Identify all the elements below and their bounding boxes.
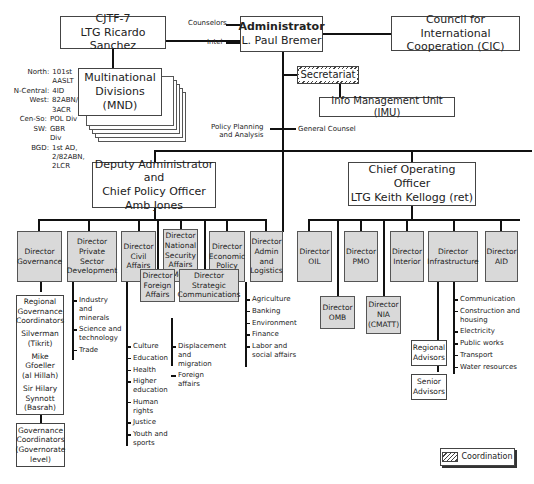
administrator-title: Administrator xyxy=(238,20,324,34)
text-line: Synnott xyxy=(25,394,54,404)
list-item: Health xyxy=(128,366,172,375)
list-item: Environment xyxy=(247,319,303,328)
connector xyxy=(38,219,266,221)
foreign-affairs-list: Displacement and migration Foreign affai… xyxy=(173,342,223,392)
mnd-title-3: (MND) xyxy=(103,99,138,113)
list-item: Culture xyxy=(128,342,172,351)
list-item: Human rights xyxy=(128,398,172,416)
connector xyxy=(138,219,140,231)
list-item: Justice xyxy=(128,418,172,427)
text-line: (Tikrit) xyxy=(28,339,53,349)
advisors-label: Senior Advisors xyxy=(412,377,446,397)
deputy-box: Deputy Administrator and Chief Policy Of… xyxy=(92,162,216,208)
connector xyxy=(406,219,408,231)
text-line: Sir Hilary xyxy=(23,384,57,394)
text-line: Mike xyxy=(31,352,48,362)
director-label: Director Civil Affairs xyxy=(122,242,155,271)
text-line: (Basrah) xyxy=(24,403,56,413)
counselors-label: Counselors xyxy=(188,19,227,27)
secretariat-label: Secretariat xyxy=(299,69,356,82)
legend-label: Coordination xyxy=(461,452,512,462)
cic-box: Council for International Cooperation (C… xyxy=(391,16,520,51)
cic-line1: Council for International xyxy=(392,13,519,41)
advisors-label: Regional Advisors xyxy=(412,343,446,363)
region-unit: POL Div xyxy=(50,115,78,124)
region-name: BGD: xyxy=(2,144,52,172)
connector xyxy=(154,150,532,152)
director-label: Director AID xyxy=(486,247,517,267)
general-counsel-label: General Counsel xyxy=(298,125,356,133)
text-line: (al Hillah) xyxy=(22,371,58,381)
director-infrastructure: Director Infrastructure xyxy=(428,231,478,282)
private-sector-list: Industry and minerals Science and techno… xyxy=(74,296,122,358)
mnd-title-2: Divisions xyxy=(95,85,144,99)
director-foreign-affairs: Director Foreign Affairs xyxy=(140,269,175,302)
region-name: West: xyxy=(2,96,52,115)
connector xyxy=(40,415,42,423)
text-line: Governance xyxy=(17,307,62,317)
director-aid: Director AID xyxy=(485,231,518,282)
director-label: Director Private Sector Development xyxy=(67,237,117,276)
regional-governance-box: Regional Governance Coordinators Silverm… xyxy=(16,295,64,415)
connector xyxy=(360,219,362,231)
civil-affairs-list: Culture Education Health Higher educatio… xyxy=(128,342,172,451)
connector xyxy=(40,282,42,292)
director-label: Director PMO xyxy=(345,247,377,267)
cjtf-name: LTG Ricardo Sanchez xyxy=(61,26,165,54)
coo-name: LTG Keith Kellogg (ret) xyxy=(351,191,473,205)
region-unit: 82ABN/ 3ACR xyxy=(52,96,78,115)
policy-planning-line2: and Analysis xyxy=(211,131,264,139)
list-item: Science and technology xyxy=(74,325,122,343)
list-item: Industry and minerals xyxy=(74,296,122,322)
list-item: Youth and sports xyxy=(128,430,172,448)
list-item: Education xyxy=(128,354,172,363)
list-item: Higher education xyxy=(128,377,172,395)
imu-label: Info Management Unit (IMU) xyxy=(320,95,454,120)
director-strategic-communications: Director Strategic Communications xyxy=(179,269,239,302)
list-item: Labor and social affairs xyxy=(247,342,303,360)
director-governance: Director Governance xyxy=(17,231,62,282)
region-name: SW: xyxy=(2,125,50,144)
connector xyxy=(204,219,206,269)
imu-box: Info Management Unit (IMU) xyxy=(319,97,455,117)
text-line: (Governorate xyxy=(16,445,66,455)
region-name: N-Central: xyxy=(2,87,52,96)
senior-advisors-box: Senior Advisors xyxy=(411,374,447,400)
director-private-sector: Director Private Sector Development xyxy=(67,231,117,282)
text-line: Coordinators xyxy=(16,435,64,445)
text-line: Regional xyxy=(24,297,56,307)
legend-box: Coordination xyxy=(440,448,515,466)
connector xyxy=(157,219,159,269)
director-admin-logistics: Director Admin and Logistics xyxy=(250,231,283,282)
mnd-title-1: Multinational xyxy=(84,71,155,85)
intel-label: Intel xyxy=(207,38,223,46)
administrator-name: L. Paul Bremer xyxy=(241,34,321,48)
director-omb: Director OMB xyxy=(320,296,355,329)
secretariat-box: Secretariat xyxy=(297,66,359,84)
connector xyxy=(500,219,502,231)
director-label: Director Admin and Logistics xyxy=(250,237,282,276)
connector xyxy=(282,52,284,232)
director-label: Director OIL xyxy=(298,247,331,267)
list-item: Public works xyxy=(455,339,527,348)
director-label: Director OMB xyxy=(321,303,354,323)
cjtf-title: CJTF-7 xyxy=(96,12,131,26)
list-item: Construction and housing xyxy=(455,307,527,325)
region-name: North: xyxy=(2,68,52,87)
connector xyxy=(270,128,296,130)
connector xyxy=(337,219,339,299)
deputy-line2: Chief Policy Officer xyxy=(102,185,206,199)
connector xyxy=(38,219,40,231)
text-line: level) xyxy=(30,455,51,465)
region-unit: GBR Div xyxy=(50,125,78,144)
connector xyxy=(323,33,391,35)
list-item: Transport xyxy=(455,351,527,360)
region-unit: 1st AD, 2/82ABN, 2LCR xyxy=(52,144,78,172)
text-line: Governance xyxy=(18,426,63,436)
regional-advisors-box: Regional Advisors xyxy=(411,340,447,366)
cic-line2: Cooperation (CIC) xyxy=(407,40,505,54)
connector xyxy=(308,219,520,221)
coo-box: Chief Operating Officer LTG Keith Kellog… xyxy=(348,162,476,206)
mnd-box: Multinational Divisions (MND) xyxy=(78,68,162,116)
director-label: Director Economic Policy xyxy=(209,242,245,271)
